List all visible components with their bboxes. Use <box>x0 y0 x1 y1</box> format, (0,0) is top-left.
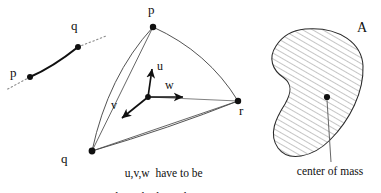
figure-canvas: p q p r q u w v u,v,w have to be linearl… <box>0 0 381 193</box>
triangle-caption-line-1: u,v,w have to be <box>125 167 203 179</box>
vector-label-w: w <box>165 79 174 92</box>
curve-label-q: q <box>71 19 78 33</box>
vector-label-u: u <box>157 60 163 73</box>
curve-segment-group <box>6 36 106 90</box>
vector-u-arrow <box>148 69 152 97</box>
vector-label-v: v <box>111 99 117 112</box>
region-fill-hatched <box>272 29 363 157</box>
vector-v-arrow <box>122 97 148 118</box>
curve-dotted-extension-right <box>78 36 106 47</box>
curve-point-p-dot <box>27 74 33 80</box>
curve-label-p: p <box>10 66 17 80</box>
triangle-label-p: p <box>148 3 155 17</box>
region-label-a: A <box>357 21 367 36</box>
curve-point-q-dot <box>75 44 81 50</box>
hatched-region-group <box>272 29 363 162</box>
triangle-caption: u,v,w have to be linearly dependant <box>96 155 220 193</box>
center-of-mass-caption: center of mass <box>279 165 381 177</box>
triangle-chord-q-p-inner <box>92 27 153 151</box>
triangle-label-r: r <box>239 104 243 118</box>
triangle-label-q: q <box>61 152 68 166</box>
triangle-caption-line-2: linearly dependant <box>96 191 220 193</box>
triangle-vertex-q-dot <box>89 148 96 155</box>
curve-solid-segment <box>30 47 78 77</box>
triangle-vertex-p-dot <box>150 24 156 30</box>
center-of-mass-dot <box>324 94 330 100</box>
vectors-origin-dot <box>145 94 151 100</box>
